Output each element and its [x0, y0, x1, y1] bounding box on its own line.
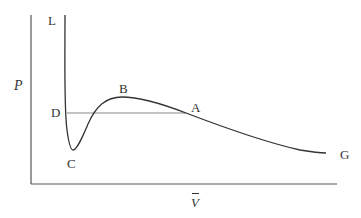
point-label-l: L: [48, 14, 56, 27]
point-label-b: B: [119, 82, 128, 95]
point-label-g: G: [340, 148, 349, 161]
y-axis-label: P: [14, 79, 23, 93]
isotherm-curve: [65, 15, 326, 153]
point-label-d: D: [51, 106, 60, 119]
point-label-a: A: [191, 101, 200, 114]
x-axis-label: V: [191, 196, 199, 209]
point-label-c: C: [67, 157, 76, 170]
